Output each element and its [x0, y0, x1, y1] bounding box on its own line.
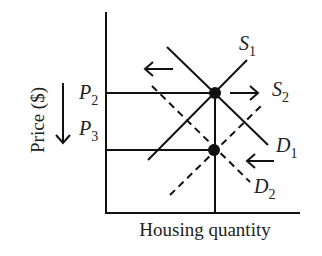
arrow-down-icon [56, 83, 70, 143]
equilibrium-point-e1 [209, 87, 221, 99]
curve-label-s1: S1 [239, 32, 256, 59]
arrow-left-icon [145, 62, 173, 76]
y-axis-label: Price ($) [27, 87, 49, 153]
equilibrium-point-e2 [208, 144, 220, 156]
curve-label-s2: S2 [272, 78, 289, 105]
curve-label-d1: D1 [275, 134, 297, 161]
arrow-left-icon [247, 154, 274, 168]
price-label-p3: P3 [78, 117, 98, 144]
curve-label-d2: D2 [253, 175, 275, 202]
supply-demand-diagram: Price ($) Housing quantity P2 P3 S1 S2 D… [0, 0, 322, 256]
price-label-p2: P2 [78, 81, 98, 108]
x-axis-label: Housing quantity [139, 219, 271, 240]
demand-curve-d2 [152, 86, 250, 182]
arrow-right-icon [230, 86, 258, 100]
